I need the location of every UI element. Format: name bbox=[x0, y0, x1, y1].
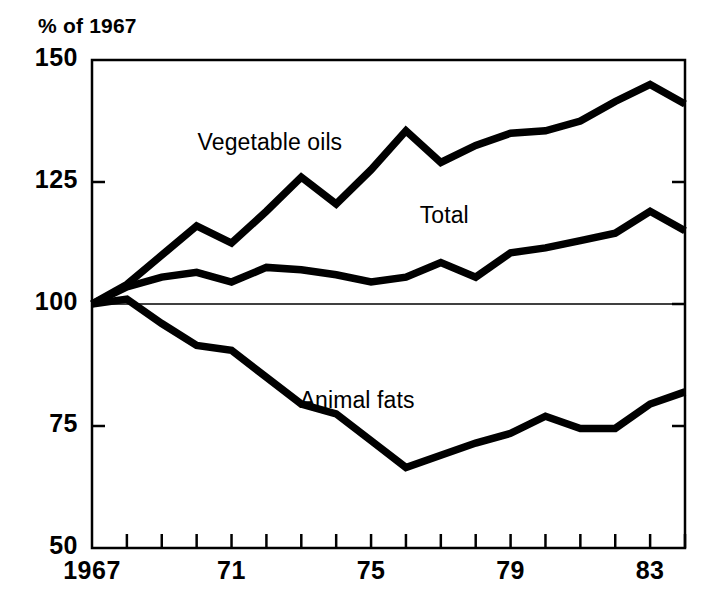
y-tick-label-125: 125 bbox=[35, 165, 78, 194]
y-tick-label-75: 75 bbox=[49, 409, 78, 438]
y-tick-label-150: 150 bbox=[35, 43, 78, 72]
chart-plot-area bbox=[0, 0, 709, 612]
chart-container: % of 1967 5075100125150 196771757983 Veg… bbox=[0, 0, 709, 612]
x-tick-label-71: 71 bbox=[177, 556, 287, 585]
series-label-total: Total bbox=[420, 202, 469, 229]
series-label-vegetable-oils: Vegetable oils bbox=[198, 129, 343, 156]
x-tick-label-1967: 1967 bbox=[37, 556, 147, 585]
y-tick-label-100: 100 bbox=[35, 287, 78, 316]
x-tick-label-75: 75 bbox=[316, 556, 426, 585]
x-tick-label-83: 83 bbox=[595, 556, 705, 585]
series-label-animal-fats: Animal fats bbox=[300, 387, 415, 414]
x-tick-label-79: 79 bbox=[456, 556, 566, 585]
